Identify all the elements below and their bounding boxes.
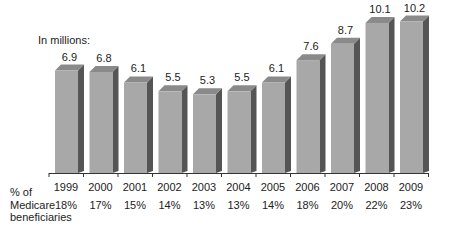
percent-value: 13%	[222, 199, 256, 211]
data-label: 8.7	[338, 24, 353, 36]
percent-value: 18%	[291, 199, 325, 211]
x-tick-label: 2000	[84, 181, 118, 193]
percent-value: 13%	[187, 199, 221, 211]
bar-2003: 5.3	[193, 74, 222, 173]
x-tick-label: 2008	[360, 181, 394, 193]
data-label: 5.3	[200, 74, 215, 86]
bar-2004: 5.5	[228, 71, 257, 173]
data-label: 5.5	[165, 71, 180, 83]
row-label-line-1: % of	[10, 186, 72, 199]
percent-value: 14%	[256, 199, 290, 211]
data-label: 6.9	[62, 51, 77, 63]
data-label: 7.6	[303, 40, 318, 52]
bar-2000: 6.8	[90, 52, 119, 173]
bar-2009: 10.2	[400, 2, 429, 173]
data-label: 6.8	[96, 52, 111, 64]
bar-2007: 8.7	[331, 24, 360, 173]
data-label: 6.1	[269, 62, 284, 74]
percent-value: 15%	[118, 199, 152, 211]
data-label: 10.2	[404, 2, 425, 14]
data-label: 10.1	[369, 3, 390, 15]
percent-value: 20%	[325, 199, 359, 211]
row-label-line-3: beneficiaries	[10, 211, 72, 224]
bar-2002: 5.5	[159, 71, 188, 173]
percent-value: 22%	[360, 199, 394, 211]
x-tick-label: 2009	[394, 181, 428, 193]
data-label: 5.5	[234, 71, 249, 83]
x-tick-label: 2007	[325, 181, 359, 193]
x-tick-label: 2002	[153, 181, 187, 193]
percent-value: 14%	[153, 199, 187, 211]
x-tick-label: 2004	[222, 181, 256, 193]
x-tick-label: 2003	[187, 181, 221, 193]
bar-1999: 6.9	[55, 51, 84, 173]
data-label: 6.1	[131, 62, 146, 74]
x-tick-label: 2005	[256, 181, 290, 193]
bar-chart: In millions: 6.96.86.15.55.35.56.17.68.7…	[0, 0, 451, 231]
percent-value: 23%	[394, 199, 428, 211]
bar-2001: 6.1	[124, 62, 153, 173]
percent-value: 17%	[84, 199, 118, 211]
x-tick-label: 2001	[118, 181, 152, 193]
bar-2008: 10.1	[366, 3, 395, 173]
x-tick-label: 2006	[291, 181, 325, 193]
bar-2006: 7.6	[297, 40, 326, 173]
bar-2005: 6.1	[262, 62, 291, 173]
percent-value: 18%	[49, 199, 83, 211]
